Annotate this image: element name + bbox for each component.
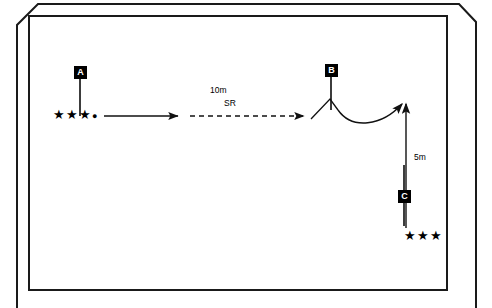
inner-border xyxy=(29,16,447,290)
stars-a: ★★★ xyxy=(53,107,92,122)
label-10m: 10m xyxy=(210,85,227,95)
stars-c: ★★★ xyxy=(404,228,443,243)
ball-dot-a: ● xyxy=(92,111,98,121)
outer-border xyxy=(17,4,476,308)
curved-arrow xyxy=(338,104,402,123)
diagram-canvas: A B C 10m SR 5m ★★★● ★★★ xyxy=(0,0,492,308)
label-5m: 5m xyxy=(414,152,426,162)
player-group-c: ★★★ xyxy=(404,229,443,242)
marker-c[interactable]: C xyxy=(398,190,411,203)
label-sr: SR xyxy=(224,98,236,108)
zigzag-path xyxy=(311,99,338,119)
marker-b[interactable]: B xyxy=(325,64,338,77)
player-group-a: ★★★● xyxy=(53,108,98,123)
marker-a[interactable]: A xyxy=(74,66,87,79)
